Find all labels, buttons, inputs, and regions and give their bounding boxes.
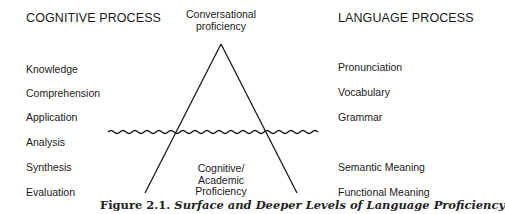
cap-label-line3: Proficiency	[186, 186, 256, 198]
language-item-vocabulary: Vocabulary	[338, 86, 390, 98]
cognitive-item-evaluation: Evaluation	[26, 186, 75, 198]
figure-number: Figure 2.1.	[100, 198, 174, 212]
cognitive-item-knowledge: Knowledge	[26, 63, 78, 75]
cognitive-item-comprehension: Comprehension	[26, 87, 100, 99]
conversational-label-line1: Conversational	[181, 9, 261, 21]
cognitive-item-analysis: Analysis	[26, 136, 65, 148]
language-item-semantic-meaning: Semantic Meaning	[338, 161, 425, 173]
conversational-label-line2: proficiency	[181, 21, 261, 33]
cognitive-academic-proficiency-label: Cognitive/ Academic Proficiency	[186, 163, 256, 198]
cognitive-item-application: Application	[26, 111, 77, 123]
cognitive-item-synthesis: Synthesis	[26, 161, 72, 173]
language-process-header: LANGUAGE PROCESS	[338, 11, 474, 25]
figure-caption: Figure 2.1. Surface and Deeper Levels of…	[100, 198, 505, 212]
language-item-pronunciation: Pronunciation	[338, 61, 402, 73]
cognitive-process-header: COGNITIVE PROCESS	[26, 11, 161, 25]
conversational-proficiency-label: Conversational proficiency	[181, 9, 261, 32]
figure-title: Surface and Deeper Levels of Language Pr…	[174, 198, 505, 212]
language-item-functional-meaning: Functional Meaning	[338, 186, 430, 198]
language-item-grammar: Grammar	[338, 111, 382, 123]
cap-label-line1: Cognitive/	[186, 163, 256, 175]
wavy-line	[108, 131, 318, 134]
